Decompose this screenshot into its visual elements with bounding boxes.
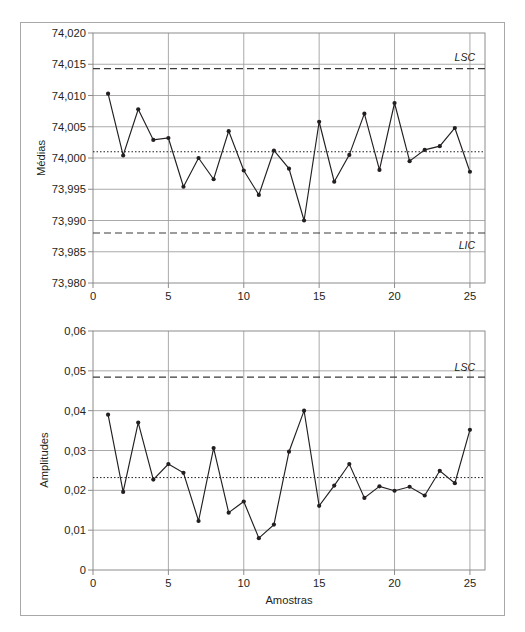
data-point bbox=[392, 101, 396, 105]
tick-label: 0 bbox=[80, 564, 86, 576]
data-point bbox=[212, 177, 216, 181]
data-point bbox=[302, 218, 306, 222]
data-point bbox=[257, 193, 261, 197]
data-point bbox=[151, 138, 155, 142]
data-point bbox=[242, 168, 246, 172]
data-point bbox=[121, 153, 125, 157]
chart-xbar-x-tickmarks bbox=[93, 283, 470, 288]
chart-xbar-y-tickmarks bbox=[88, 33, 93, 283]
tick-label: 74,000 bbox=[52, 152, 86, 164]
data-point bbox=[151, 477, 155, 481]
data-point bbox=[317, 504, 321, 508]
data-point bbox=[136, 107, 140, 111]
tick-label: 0,06 bbox=[64, 325, 86, 337]
chart-xbar-y-axis-title: Médias bbox=[35, 140, 47, 176]
data-point bbox=[377, 484, 381, 488]
chart-range-series-markers bbox=[106, 409, 472, 541]
data-point bbox=[242, 499, 246, 503]
tick-label: 74,020 bbox=[52, 27, 86, 39]
chart-range-y-axis-title: Amplitudes bbox=[38, 432, 50, 488]
chart-range-series-line bbox=[108, 411, 470, 538]
tick-label: 74,005 bbox=[52, 121, 86, 133]
data-point bbox=[106, 413, 110, 417]
chart-range-x-tickmarks bbox=[93, 570, 470, 575]
tick-label: 5 bbox=[165, 290, 171, 302]
data-point bbox=[196, 156, 200, 160]
tick-label: 20 bbox=[388, 577, 400, 589]
data-point bbox=[347, 462, 351, 466]
data-point bbox=[468, 170, 472, 174]
data-point bbox=[453, 126, 457, 130]
chart-range-x-tick-labels: 0510152025 bbox=[90, 577, 476, 589]
data-point bbox=[272, 522, 276, 526]
data-point bbox=[362, 496, 366, 500]
chart-xbar-lsc-label: LSC bbox=[455, 51, 476, 63]
data-point bbox=[362, 112, 366, 116]
data-point bbox=[272, 148, 276, 152]
data-point bbox=[423, 493, 427, 497]
chart-xbar: 73,98073,98573,99073,99574,00074,00574,0… bbox=[35, 27, 485, 302]
data-point bbox=[302, 409, 306, 413]
data-point bbox=[106, 92, 110, 96]
data-point bbox=[166, 462, 170, 466]
data-point bbox=[423, 148, 427, 152]
data-point bbox=[212, 446, 216, 450]
data-point bbox=[438, 469, 442, 473]
data-point bbox=[377, 168, 381, 172]
data-point bbox=[227, 511, 231, 515]
data-point bbox=[408, 159, 412, 163]
chart-xbar-lic-label: LIC bbox=[459, 239, 476, 251]
data-point bbox=[392, 489, 396, 493]
chart-xbar-y-tick-labels: 73,98073,98573,99073,99574,00074,00574,0… bbox=[52, 27, 86, 289]
tick-label: 73,995 bbox=[52, 183, 86, 195]
data-point bbox=[287, 167, 291, 171]
tick-label: 15 bbox=[313, 290, 325, 302]
data-point bbox=[453, 481, 457, 485]
tick-label: 0,02 bbox=[64, 484, 86, 496]
data-point bbox=[136, 421, 140, 425]
tick-label: 74,015 bbox=[52, 58, 86, 70]
tick-label: 0,03 bbox=[64, 445, 86, 457]
tick-label: 25 bbox=[464, 577, 476, 589]
chart-xbar-series-markers bbox=[106, 92, 472, 223]
tick-label: 10 bbox=[238, 577, 250, 589]
tick-label: 0,04 bbox=[64, 405, 86, 417]
chart-xbar-gridlines-y bbox=[93, 64, 485, 252]
tick-label: 0,01 bbox=[64, 524, 86, 536]
tick-label: 15 bbox=[313, 577, 325, 589]
chart-xbar-series-line bbox=[108, 94, 470, 221]
data-point bbox=[166, 136, 170, 140]
data-point bbox=[181, 471, 185, 475]
tick-label: 73,990 bbox=[52, 215, 86, 227]
charts-canvas: 73,98073,98573,99073,99574,00074,00574,0… bbox=[0, 0, 525, 632]
tick-label: 73,980 bbox=[52, 277, 86, 289]
control-chart-figure: 73,98073,98573,99073,99574,00074,00574,0… bbox=[0, 0, 525, 632]
data-point bbox=[257, 536, 261, 540]
data-point bbox=[408, 485, 412, 489]
chart-xbar-x-tick-labels: 0510152025 bbox=[90, 290, 476, 302]
tick-label: 10 bbox=[238, 290, 250, 302]
tick-label: 5 bbox=[165, 577, 171, 589]
chart-range: 00,010,020,030,040,050,06 0510152025 Amp… bbox=[38, 325, 485, 606]
data-point bbox=[227, 129, 231, 133]
data-point bbox=[181, 185, 185, 189]
tick-label: 20 bbox=[388, 290, 400, 302]
data-point bbox=[121, 490, 125, 494]
data-point bbox=[468, 428, 472, 432]
tick-label: 73,985 bbox=[52, 246, 86, 258]
tick-label: 25 bbox=[464, 290, 476, 302]
data-point bbox=[438, 144, 442, 148]
tick-label: 0 bbox=[90, 290, 96, 302]
data-point bbox=[287, 450, 291, 454]
tick-label: 0,05 bbox=[64, 365, 86, 377]
tick-label: 0 bbox=[90, 577, 96, 589]
data-point bbox=[317, 120, 321, 124]
data-point bbox=[347, 153, 351, 157]
chart-range-x-axis-title: Amostras bbox=[265, 594, 313, 606]
chart-range-y-tickmarks bbox=[88, 331, 93, 570]
data-point bbox=[332, 483, 336, 487]
data-point bbox=[332, 180, 336, 184]
chart-range-lsc-label: LSC bbox=[455, 361, 476, 373]
chart-range-y-tick-labels: 00,010,020,030,040,050,06 bbox=[64, 325, 86, 576]
tick-label: 74,010 bbox=[52, 90, 86, 102]
